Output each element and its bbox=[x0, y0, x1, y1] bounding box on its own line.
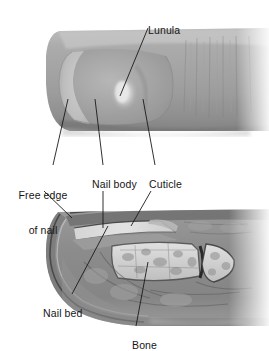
label-nail-bed: Nail bed bbox=[31, 296, 82, 331]
label-nail-bed-text: Nail bed bbox=[43, 307, 82, 319]
label-free-edge-line2: of nail bbox=[12, 225, 74, 237]
label-free-edge-line1: Free edge bbox=[12, 190, 74, 202]
label-nail-body-text: Nail body bbox=[92, 178, 137, 190]
label-free-edge-of-nail: Free edge of nail bbox=[12, 167, 74, 259]
label-bone-text: Bone bbox=[132, 339, 157, 351]
label-cuticle: Cuticle bbox=[137, 167, 182, 202]
label-lunula: Lunula bbox=[136, 13, 180, 48]
label-bone: Bone bbox=[120, 328, 157, 351]
label-cuticle-text: Cuticle bbox=[149, 178, 182, 190]
label-nail-body: Nail body bbox=[80, 167, 137, 202]
nail-anatomy-figure: Lunula Free edge of nail Nail body Cutic… bbox=[0, 0, 269, 351]
label-lunula-text: Lunula bbox=[148, 24, 180, 36]
